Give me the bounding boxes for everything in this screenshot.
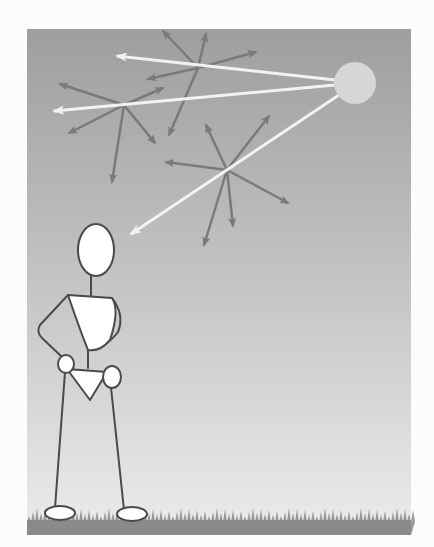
observer-right-foot [117, 507, 147, 521]
observer-right-hand [103, 366, 121, 388]
observer-left-foot [45, 506, 75, 520]
observer-head [78, 224, 114, 276]
sky-frame [27, 29, 411, 535]
sun-icon [334, 62, 376, 104]
observer-left-hand [58, 355, 74, 373]
scattering-illustration [0, 0, 434, 547]
